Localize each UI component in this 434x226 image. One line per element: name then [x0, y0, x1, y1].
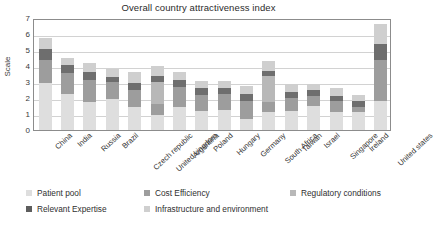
x-axis-labels: ChinaIndiaRussiaBrazilCzech republicUnit…	[33, 131, 391, 183]
bar-column[interactable]	[128, 72, 141, 130]
bar-segment	[262, 76, 275, 102]
bar-segment	[240, 86, 253, 94]
chart-legend: Patient poolCost EfficiencyRegulatory co…	[26, 188, 386, 222]
bar-segment	[330, 112, 343, 130]
x-tick-label: Israel	[322, 131, 342, 150]
bar-segment	[374, 101, 387, 130]
bar-segment	[262, 102, 275, 112]
bar-segment	[307, 96, 320, 106]
bar-column[interactable]	[352, 95, 365, 130]
bar-column[interactable]	[218, 81, 231, 130]
y-tick-label: 7	[4, 15, 30, 23]
bar-segment	[39, 38, 52, 49]
bar-column[interactable]	[61, 58, 74, 130]
chart-title: Overall country attractiveness index	[0, 2, 397, 13]
bar-segment	[151, 66, 164, 76]
bar-segment	[330, 101, 343, 111]
bar-segment	[61, 73, 74, 94]
bar-column[interactable]	[262, 61, 275, 130]
bar-segment	[240, 101, 253, 119]
bar-segment	[285, 92, 298, 98]
y-axis-ticks: 76543210	[0, 19, 30, 131]
bar-segment	[330, 96, 343, 102]
x-tick-label: Brazil	[120, 131, 140, 151]
y-tick-label: 0	[4, 127, 30, 135]
legend-label: Regulatory conditions	[301, 188, 381, 198]
bar-segment	[83, 102, 96, 130]
legend-label: Cost Efficiency	[155, 188, 210, 198]
y-tick-label: 1	[4, 111, 30, 119]
bar-segment	[374, 24, 387, 43]
x-tick-label: Russia	[99, 131, 122, 153]
legend-swatch-icon	[26, 206, 32, 212]
bar-segment	[195, 81, 208, 88]
bar-segment	[218, 88, 231, 94]
bar-segment	[128, 83, 141, 90]
legend-item[interactable]: Infrastructure and environment	[144, 204, 268, 214]
plot-area	[33, 19, 391, 131]
bar-segment	[173, 80, 186, 86]
bar-segment	[352, 95, 365, 101]
bar-segment	[173, 107, 186, 130]
bar-segment	[173, 72, 186, 81]
bar-segment	[83, 63, 96, 72]
bar-segment	[195, 111, 208, 130]
bar-segment	[106, 99, 119, 130]
legend-label: Infrastructure and environment	[155, 204, 268, 214]
bar-column[interactable]	[195, 81, 208, 130]
bar-segment	[106, 69, 119, 77]
bar-segment	[128, 90, 141, 107]
bar-segment	[106, 82, 119, 99]
bar-segment	[307, 90, 320, 96]
x-tick-label: Taiwan	[301, 131, 324, 154]
y-tick-label: 2	[4, 95, 30, 103]
bars-layer	[34, 20, 390, 130]
legend-item[interactable]: Patient pool	[26, 188, 81, 198]
bar-segment	[151, 104, 164, 114]
bar-segment	[61, 94, 74, 130]
bar-segment	[285, 111, 298, 130]
bar-segment	[352, 101, 365, 107]
bar-segment	[218, 81, 231, 87]
bar-segment	[307, 84, 320, 90]
bar-segment	[61, 58, 74, 65]
bar-segment	[285, 84, 298, 91]
legend-label: Patient pool	[37, 188, 81, 198]
bar-segment	[83, 72, 96, 80]
bar-segment	[352, 107, 365, 113]
bar-column[interactable]	[240, 86, 253, 130]
legend-item[interactable]: Cost Efficiency	[144, 188, 210, 198]
y-tick-label: 6	[4, 31, 30, 39]
bar-segment	[128, 107, 141, 130]
bar-segment	[262, 61, 275, 71]
y-tick-label: 3	[4, 79, 30, 87]
bar-column[interactable]	[374, 24, 387, 130]
legend-swatch-icon	[144, 206, 150, 212]
bar-column[interactable]	[307, 84, 320, 130]
x-tick-label: India	[75, 131, 93, 149]
bar-column[interactable]	[151, 66, 164, 130]
bar-segment	[374, 60, 387, 102]
bar-segment	[218, 94, 231, 110]
legend-item[interactable]: Relevant Expertise	[26, 204, 107, 214]
bar-segment	[39, 60, 52, 83]
bar-segment	[151, 115, 164, 130]
y-tick-label: 5	[4, 47, 30, 55]
bar-segment	[240, 119, 253, 130]
bar-segment	[195, 88, 208, 94]
bar-segment	[106, 77, 119, 82]
bar-column[interactable]	[285, 84, 298, 130]
bar-column[interactable]	[173, 72, 186, 130]
legend-item[interactable]: Regulatory conditions	[290, 188, 381, 198]
x-tick-label: Hungary	[235, 131, 262, 157]
legend-swatch-icon	[144, 190, 150, 196]
legend-swatch-icon	[26, 190, 32, 196]
bar-segment	[352, 112, 365, 130]
bar-column[interactable]	[39, 38, 52, 130]
bar-segment	[39, 49, 52, 59]
bar-column[interactable]	[106, 69, 119, 130]
bar-column[interactable]	[83, 63, 96, 130]
bar-segment	[285, 98, 298, 111]
bar-column[interactable]	[330, 88, 343, 130]
